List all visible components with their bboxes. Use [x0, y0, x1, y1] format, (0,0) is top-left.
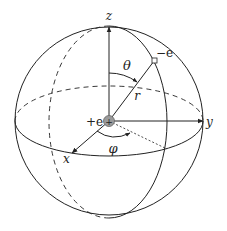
electron-label: −e: [156, 46, 173, 60]
y-axis-label: y: [205, 115, 213, 129]
z-axis-label: z: [105, 9, 113, 23]
theta-label: θ: [123, 58, 131, 73]
spherical-coordinates-diagram: + z y x θ φ r +e −e: [0, 0, 227, 231]
nucleus-label: +e: [86, 115, 103, 129]
projection-line: [109, 121, 167, 149]
phi-arc: [97, 131, 130, 137]
radius-vector: [109, 61, 154, 121]
theta-arc: [109, 73, 137, 82]
x-axis-label: x: [63, 152, 70, 166]
phi-label: φ: [108, 141, 118, 156]
radius-label: r: [134, 89, 141, 103]
nucleus-symbol: +: [105, 117, 113, 127]
